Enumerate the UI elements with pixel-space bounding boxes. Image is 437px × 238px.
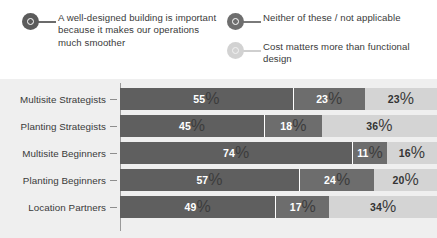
legend-item-2[interactable]: Cost matters more than functional design bbox=[227, 40, 432, 66]
category-label: Planting Beginners bbox=[0, 175, 110, 186]
category-label: Multisite Strategists bbox=[0, 94, 110, 105]
segment-value: 16 bbox=[399, 147, 411, 159]
axis-tick bbox=[110, 126, 117, 127]
segment-value: 24 bbox=[324, 174, 336, 186]
axis-tick bbox=[110, 180, 117, 181]
percent-sign: % bbox=[191, 117, 205, 135]
legend-item-1[interactable]: Neither of these / not applicable bbox=[227, 11, 432, 33]
bar-segment[interactable]: 57% bbox=[120, 169, 299, 191]
donut-marker-icon bbox=[22, 13, 39, 30]
stacked-bar-chart: Multisite Strategists55%23%23%Planting S… bbox=[0, 79, 437, 238]
legend-marker-1 bbox=[227, 11, 263, 33]
bar-segment[interactable]: 23% bbox=[293, 88, 365, 110]
bar-segment[interactable]: 55% bbox=[120, 88, 293, 110]
legend-leader-line-icon bbox=[241, 21, 261, 23]
percent-sign: % bbox=[400, 90, 414, 108]
chart-row: Planting Strategists45%18%36% bbox=[0, 115, 437, 137]
segment-value: 57 bbox=[196, 174, 208, 186]
legend-marker-0 bbox=[22, 11, 58, 33]
bar-segment[interactable]: 74% bbox=[120, 142, 352, 164]
chart-rows: Multisite Strategists55%23%23%Planting S… bbox=[0, 79, 437, 218]
chart-row: Planting Beginners57%24%20% bbox=[0, 169, 437, 191]
percent-sign: % bbox=[382, 198, 396, 216]
category-label: Multisite Beginners bbox=[0, 148, 110, 159]
percent-sign: % bbox=[302, 198, 316, 216]
bar-segment[interactable]: 24% bbox=[299, 169, 374, 191]
bar-segment[interactable]: 49% bbox=[120, 196, 275, 218]
axis-tick bbox=[110, 207, 117, 208]
segment-value: 34 bbox=[370, 201, 382, 213]
stacked-bar: 74%11%16% bbox=[120, 142, 437, 164]
bar-segment[interactable]: 17% bbox=[275, 196, 329, 218]
legend-leader-line-icon bbox=[241, 50, 261, 52]
bar-segment[interactable]: 20% bbox=[374, 169, 437, 191]
stacked-bar: 57%24%20% bbox=[120, 169, 437, 191]
category-label: Location Partners bbox=[0, 202, 110, 213]
bar-segment[interactable]: 16% bbox=[387, 142, 437, 164]
bar-segment[interactable]: 34% bbox=[329, 196, 437, 218]
segment-value: 17 bbox=[290, 201, 302, 213]
percent-sign: % bbox=[208, 171, 222, 189]
percent-sign: % bbox=[205, 90, 219, 108]
percent-sign: % bbox=[196, 198, 210, 216]
percent-sign: % bbox=[235, 144, 249, 162]
percent-sign: % bbox=[336, 171, 350, 189]
bar-segment[interactable]: 18% bbox=[264, 115, 322, 137]
legend-label-1: Neither of these / not applicable bbox=[263, 11, 401, 24]
axis-tick bbox=[110, 99, 117, 100]
segment-value: 18 bbox=[280, 120, 292, 132]
percent-sign: % bbox=[328, 90, 342, 108]
chart-row: Multisite Strategists55%23%23% bbox=[0, 88, 437, 110]
stacked-bar: 49%17%34% bbox=[120, 196, 437, 218]
axis-tick bbox=[110, 153, 117, 154]
percent-sign: % bbox=[404, 171, 418, 189]
percent-sign: % bbox=[369, 144, 383, 162]
bar-segment[interactable]: 11% bbox=[352, 142, 387, 164]
bar-segment[interactable]: 36% bbox=[322, 115, 437, 137]
donut-marker-icon bbox=[227, 13, 244, 30]
bar-segment[interactable]: 45% bbox=[120, 115, 264, 137]
stacked-bar: 45%18%36% bbox=[120, 115, 437, 137]
legend-label-0: A well-designed building is important be… bbox=[58, 11, 217, 49]
legend-leader-line-icon bbox=[36, 21, 56, 23]
legend-label-2: Cost matters more than functional design bbox=[263, 40, 432, 66]
legend-marker-2 bbox=[227, 40, 263, 62]
segment-value: 49 bbox=[185, 201, 197, 213]
percent-sign: % bbox=[378, 117, 392, 135]
percent-sign: % bbox=[292, 117, 306, 135]
chart-row: Multisite Beginners74%11%16% bbox=[0, 142, 437, 164]
donut-marker-icon bbox=[227, 42, 244, 59]
legend-item-0[interactable]: A well-designed building is important be… bbox=[22, 11, 217, 49]
segment-value: 23 bbox=[316, 93, 328, 105]
segment-value: 55 bbox=[193, 93, 205, 105]
category-label: Planting Strategists bbox=[0, 121, 110, 132]
chart-row: Location Partners49%17%34% bbox=[0, 196, 437, 218]
segment-value: 23 bbox=[388, 93, 400, 105]
segment-value: 45 bbox=[179, 120, 191, 132]
segment-value: 36 bbox=[366, 120, 378, 132]
segment-value: 74 bbox=[223, 147, 235, 159]
stacked-bar: 55%23%23% bbox=[120, 88, 437, 110]
percent-sign: % bbox=[411, 144, 425, 162]
bar-segment[interactable]: 23% bbox=[365, 88, 437, 110]
segment-value: 11 bbox=[357, 147, 368, 159]
segment-value: 20 bbox=[393, 174, 405, 186]
chart-legend: A well-designed building is important be… bbox=[0, 0, 437, 78]
